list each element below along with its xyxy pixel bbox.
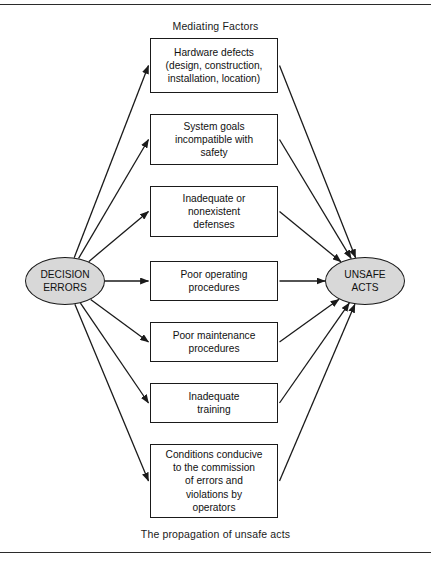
figure-container: Mediating Factors Hardware defects (desi… (0, 0, 431, 565)
edge-hardware-defects-to-target (280, 66, 356, 258)
edge-inadequate-training-to-target (280, 303, 350, 403)
factor-box-system-goals[interactable]: System goals incompatible with safety (150, 114, 278, 165)
edge-poor-maintenance-to-target (280, 299, 339, 342)
factor-box-poor-maintenance[interactable]: Poor maintenance procedures (150, 322, 278, 362)
decision-errors-node[interactable]: DECISION ERRORS (25, 257, 105, 305)
edge-source-to-hardware-defects (74, 66, 148, 258)
edge-source-to-inadequate-defenses (89, 212, 149, 262)
edge-source-to-poor-maintenance (91, 299, 149, 342)
factor-box-conditions-conducive[interactable]: Conditions conducive to the commission o… (150, 444, 278, 518)
edge-source-to-inadequate-training (80, 303, 148, 403)
edge-inadequate-defenses-to-target (280, 212, 341, 262)
edge-conditions-conducive-to-target (280, 304, 355, 481)
factor-box-inadequate-training[interactable]: Inadequate training (150, 383, 278, 423)
factor-box-inadequate-defenses[interactable]: Inadequate or nonexistent defenses (150, 186, 278, 237)
factor-box-poor-operating[interactable]: Poor operating procedures (150, 261, 278, 301)
unsafe-acts-node[interactable]: UNSAFE ACTS (325, 257, 405, 305)
edge-source-to-conditions-conducive (75, 304, 149, 481)
figure-caption: The propagation of unsafe acts (0, 528, 431, 540)
factor-box-hardware-defects[interactable]: Hardware defects (design, construction, … (150, 38, 278, 93)
